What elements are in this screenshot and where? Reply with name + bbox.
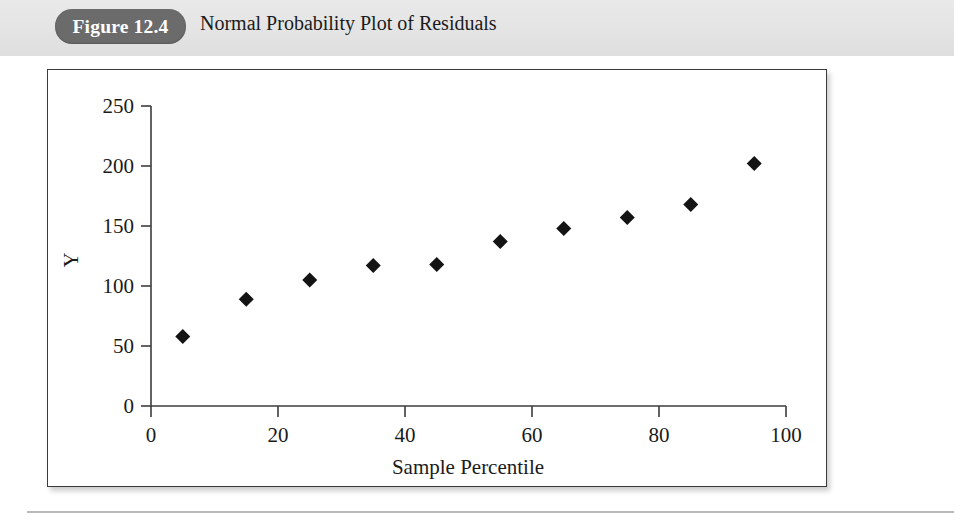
data-point-marker [556, 221, 571, 236]
data-point-marker [429, 257, 444, 272]
y-tick-label: 50 [113, 334, 134, 358]
data-point-marker [366, 258, 381, 273]
chart-frame: 050100150200250 Y 020406080100 Sample Pe… [47, 69, 827, 487]
figure-header-band: Figure 12.4 Normal Probability Plot of R… [0, 0, 954, 56]
data-point-marker [239, 292, 254, 307]
x-tick-label: 100 [770, 423, 802, 447]
x-axis-ticks [151, 406, 786, 417]
data-point-marker [747, 156, 762, 171]
x-tick-label: 20 [268, 423, 289, 447]
data-point-marker [683, 197, 698, 212]
x-tick-label: 60 [522, 423, 543, 447]
y-axis: 050100150200250 Y [59, 94, 151, 418]
data-point-marker [620, 210, 635, 225]
figure-number-label: Figure 12.4 [72, 16, 168, 38]
y-tick-label: 150 [103, 214, 135, 238]
y-tick-label: 250 [103, 94, 135, 118]
y-tick-label: 100 [103, 274, 135, 298]
scatter-plot: 050100150200250 Y 020406080100 Sample Pe… [48, 70, 826, 486]
y-axis-title: Y [59, 252, 83, 267]
x-axis-title: Sample Percentile [392, 455, 544, 479]
data-point-marker [302, 273, 317, 288]
y-tick-label: 200 [103, 154, 135, 178]
y-axis-tick-labels: 050100150200250 [103, 94, 135, 418]
x-axis-tick-labels: 020406080100 [146, 423, 802, 447]
data-point-marker [493, 234, 508, 249]
x-tick-label: 0 [146, 423, 157, 447]
page-bottom-rule [27, 511, 954, 513]
x-tick-label: 40 [395, 423, 416, 447]
y-axis-ticks [141, 106, 151, 406]
data-point-marker [175, 329, 190, 344]
data-point-series [175, 156, 762, 344]
figure-number-badge: Figure 12.4 [55, 9, 186, 44]
y-tick-label: 0 [124, 394, 135, 418]
figure-title: Normal Probability Plot of Residuals [200, 12, 497, 35]
x-axis: 020406080100 Sample Percentile [146, 406, 802, 479]
x-tick-label: 80 [649, 423, 670, 447]
